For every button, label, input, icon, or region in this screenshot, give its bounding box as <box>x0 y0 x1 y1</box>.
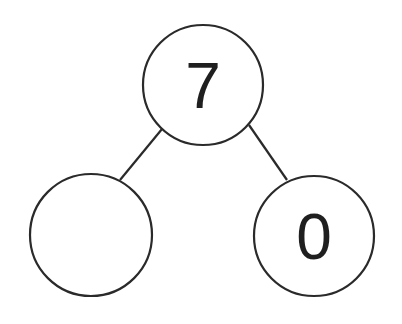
whole-node: 7 <box>143 25 263 145</box>
whole-value: 7 <box>185 50 221 122</box>
part-right-value: 0 <box>296 201 332 273</box>
part-right-node: 0 <box>254 176 374 296</box>
number-bond-diagram: 7 0 <box>0 0 402 324</box>
part-left-node <box>30 174 152 296</box>
connector-right <box>249 125 287 180</box>
connector-left <box>120 129 162 180</box>
